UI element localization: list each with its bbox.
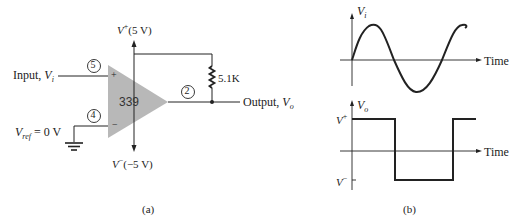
vi-axis-label: Vi [357,5,367,20]
vplus-arrow-icon [132,40,137,47]
inverting-sign: − [112,120,118,130]
vi-time-arrow-icon [476,58,482,62]
vplus-label: V+(5 V) [117,23,152,36]
caption-a: (a) [142,204,154,215]
vminus-tick-label: V− [336,175,347,188]
time-label-top: Time [484,55,509,67]
pin-5-label: 5 [91,60,96,70]
output-label: Output, Vo [243,96,294,111]
diagram-canvas [0,0,525,223]
time-label-bottom: Time [484,146,509,158]
vo-y-arrow-icon [350,100,354,106]
ic-label: 339 [119,96,139,108]
ground-icon [65,143,83,150]
vo-axis-label: Vo [357,99,368,114]
noninverting-sign: + [111,70,117,80]
resistor-value: 5.1K [218,73,240,84]
vref-wire [74,126,108,142]
pin-2-label: 2 [185,86,190,96]
vi-y-arrow-icon [350,13,354,19]
input-label: Input, Vi [13,69,54,84]
vplus-tick-label: V+ [336,113,347,126]
vo-square-wave [352,119,476,180]
vi-sine-curve [352,25,466,92]
output-junction-dot [210,100,214,104]
vo-time-arrow-icon [476,149,482,153]
pin-4-label: 4 [91,110,96,120]
vminus-label: V−(−5 V) [112,157,153,170]
resistor-icon [210,66,215,88]
vminus-arrow-icon [132,145,137,152]
caption-b: (b) [403,204,416,215]
vref-label: Vref = 0 V [15,126,61,141]
pullup-wire [134,54,212,66]
